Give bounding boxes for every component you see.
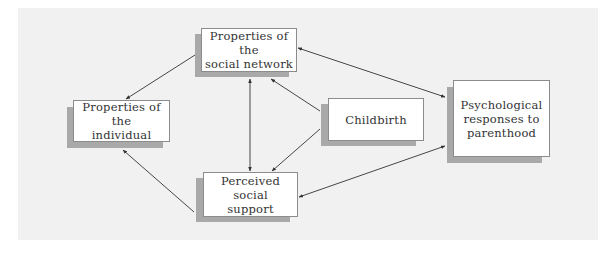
node-label: Properties of the individual [74, 100, 169, 142]
arrow-social-network-to-individual [126, 55, 195, 99]
arrow-childbirth-to-perceived-support [272, 129, 320, 171]
node-label: Psychological responses to parenthood [461, 98, 543, 140]
arrow-perceived-support-to-individual [123, 150, 194, 212]
node-box: Properties of the social network [201, 28, 297, 72]
node-label: Childbirth [345, 113, 407, 127]
node-label: Perceived social support [204, 174, 297, 216]
node-label: Properties of the social network [202, 29, 296, 71]
arrow-childbirth-to-social-network [271, 79, 320, 111]
arrow-perceived-support-to-psych-responses [299, 146, 445, 197]
node-box: Childbirth [328, 98, 424, 141]
arrow-social-network-to-psych-responses [298, 48, 445, 97]
node-box: Perceived social support [203, 172, 298, 217]
node-box: Psychological responses to parenthood [453, 80, 550, 157]
node-box: Properties of the individual [73, 100, 170, 142]
